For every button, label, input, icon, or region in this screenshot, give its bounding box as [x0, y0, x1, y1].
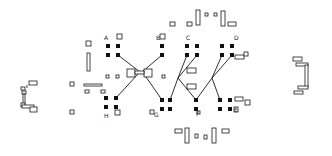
component-outline	[86, 41, 91, 46]
pad	[230, 44, 234, 48]
component-outline	[204, 135, 207, 139]
pad	[114, 105, 118, 109]
component-outline	[187, 22, 192, 26]
pad	[168, 107, 172, 111]
component-outline	[244, 52, 248, 56]
component-outline	[196, 10, 200, 25]
component-outline	[70, 82, 74, 86]
component-outlines	[70, 10, 250, 143]
component-outline	[221, 11, 225, 26]
pad	[106, 44, 110, 48]
node-label-c: C	[186, 34, 190, 41]
pad	[228, 107, 232, 111]
pad	[194, 98, 198, 102]
wire	[196, 55, 222, 100]
pad	[116, 44, 120, 48]
pad	[220, 44, 224, 48]
pad	[106, 53, 110, 57]
node-label-b: B	[156, 34, 160, 41]
wire	[144, 74, 162, 100]
component-outline	[106, 75, 109, 78]
pad	[228, 98, 232, 102]
node-label-a: A	[104, 34, 109, 41]
component-outline	[84, 84, 102, 86]
component-outline	[245, 100, 250, 105]
component-outline	[144, 69, 152, 77]
pad	[185, 53, 189, 57]
component-outline	[185, 128, 189, 143]
component-outline	[205, 13, 208, 16]
component-outline	[70, 110, 74, 114]
node-labels: ABCDEFGH	[104, 34, 239, 119]
pad	[185, 44, 189, 48]
component-outline	[115, 110, 120, 115]
pad	[104, 96, 108, 100]
component-outline	[116, 75, 119, 78]
filled-pads	[104, 44, 234, 111]
pad	[160, 107, 164, 111]
component-outline	[175, 129, 182, 133]
node-label-h: H	[104, 112, 109, 119]
pad	[160, 53, 164, 57]
node-label-f: F	[196, 110, 200, 117]
pad	[230, 53, 234, 57]
left-bracket-icon	[21, 81, 37, 112]
component-outline	[117, 34, 122, 39]
component-outline	[187, 84, 196, 89]
component-outline	[235, 97, 243, 101]
component-outline	[212, 128, 216, 143]
pad	[104, 105, 108, 109]
component-outline	[214, 13, 217, 16]
component-outline	[101, 90, 105, 93]
pad	[116, 53, 120, 57]
node-label-d: D	[234, 34, 239, 41]
component-outline	[127, 69, 135, 77]
layout-diagram: ABCDEFGH	[0, 0, 332, 156]
component-outline	[187, 68, 196, 73]
component-outline	[85, 90, 89, 93]
wires	[116, 55, 232, 100]
wire	[178, 55, 197, 100]
wire	[212, 55, 232, 100]
pad	[220, 53, 224, 57]
pad	[195, 53, 199, 57]
component-outline	[170, 22, 175, 26]
right-bracket-icon	[293, 57, 308, 94]
component-outline	[135, 71, 144, 74]
component-outline	[195, 134, 198, 138]
node-label-e: E	[234, 106, 238, 113]
pad	[218, 107, 222, 111]
pad	[114, 96, 118, 100]
component-outline	[162, 75, 165, 78]
pad	[218, 98, 222, 102]
component-outline	[160, 34, 165, 39]
component-outline	[222, 129, 229, 133]
pad	[168, 98, 172, 102]
pad	[160, 98, 164, 102]
node-label-g: G	[154, 111, 159, 118]
component-outline	[228, 22, 236, 26]
component-outline	[87, 53, 90, 71]
pad	[195, 44, 199, 48]
component-outline	[235, 55, 244, 59]
pad	[160, 44, 164, 48]
